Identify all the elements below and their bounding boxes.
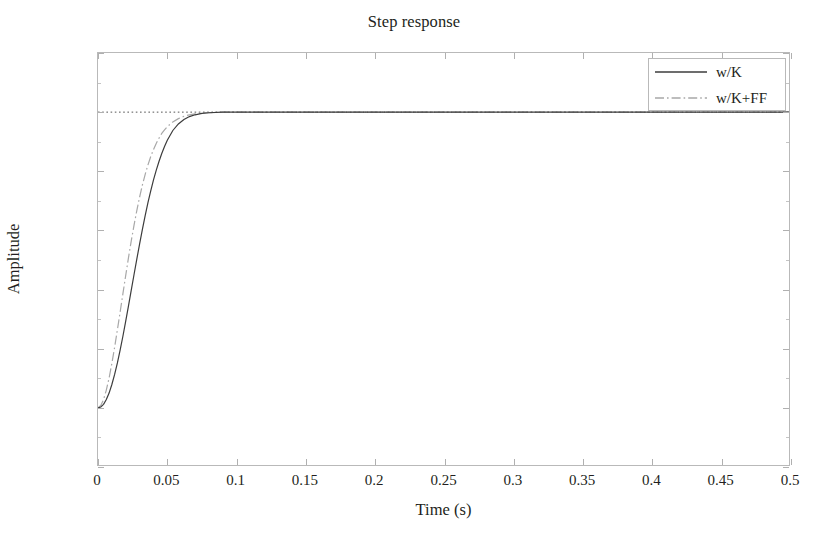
x-tick-mark (514, 459, 515, 465)
y-tick-mark (783, 349, 789, 350)
y-tick-mark (98, 171, 104, 172)
x-tick-label: 0.2 (365, 472, 384, 489)
y-axis-label: Amplitude (4, 224, 24, 295)
y-tick-mark (783, 112, 789, 113)
x-tick-label: 0 (93, 472, 101, 489)
y-minor-tick-mark (786, 142, 789, 143)
x-tick-mark (445, 53, 446, 59)
y-minor-tick-mark (98, 83, 101, 84)
legend-item-w-k: w/K (649, 59, 787, 85)
x-tick-mark (722, 459, 723, 465)
x-tick-label: 0.5 (781, 472, 800, 489)
y-minor-tick-mark (786, 378, 789, 379)
legend-line-sample-w-k-ff (654, 92, 708, 104)
series-line-w-k-ff (98, 112, 789, 408)
x-tick-mark (514, 53, 515, 59)
x-tick-label: 0.25 (430, 472, 456, 489)
y-minor-tick-mark (786, 201, 789, 202)
y-tick-mark (783, 230, 789, 231)
y-minor-tick-mark (786, 260, 789, 261)
y-tick-mark (783, 290, 789, 291)
legend-line-sample-w-k (654, 66, 708, 78)
x-tick-label: 0.1 (226, 472, 245, 489)
x-tick-mark (445, 459, 446, 465)
legend-label-w-k: w/K (716, 64, 742, 81)
x-tick-label: 0.4 (642, 472, 661, 489)
y-tick-mark (98, 349, 104, 350)
x-tick-label: 0.05 (153, 472, 179, 489)
x-tick-label: 0.15 (292, 472, 318, 489)
legend-item-w-k-ff: w/K+FF (649, 85, 787, 111)
x-tick-mark (306, 459, 307, 465)
chart-title: Step response (0, 12, 828, 32)
plot-area (97, 52, 790, 466)
curves-svg (98, 53, 789, 465)
x-tick-label: 0.45 (708, 472, 734, 489)
x-tick-mark (652, 459, 653, 465)
y-tick-mark (783, 467, 789, 468)
x-tick-mark (583, 53, 584, 59)
step-response-figure: Step response 00.050.10.150.20.250.30.35… (0, 0, 828, 546)
series-line-w-k (98, 112, 789, 408)
x-axis-label: Time (s) (97, 500, 790, 520)
y-minor-tick-mark (98, 378, 101, 379)
y-tick-mark (783, 408, 789, 409)
x-tick-mark (375, 53, 376, 59)
y-minor-tick-mark (786, 319, 789, 320)
y-tick-mark (783, 53, 789, 54)
y-tick-mark (98, 112, 104, 113)
x-tick-label: 0.35 (569, 472, 595, 489)
x-tick-mark (375, 459, 376, 465)
y-tick-mark (783, 171, 789, 172)
y-minor-tick-mark (98, 201, 101, 202)
x-tick-mark (98, 459, 99, 465)
y-minor-tick-mark (98, 142, 101, 143)
plot-inner (98, 53, 789, 465)
y-tick-mark (98, 53, 104, 54)
y-minor-tick-mark (98, 319, 101, 320)
y-minor-tick-mark (98, 437, 101, 438)
x-tick-mark (167, 53, 168, 59)
x-tick-mark (237, 459, 238, 465)
legend-label-w-k-ff: w/K+FF (716, 90, 767, 107)
y-tick-mark (98, 408, 104, 409)
x-tick-mark (583, 459, 584, 465)
x-tick-mark (791, 53, 792, 59)
y-minor-tick-mark (786, 437, 789, 438)
x-tick-mark (306, 53, 307, 59)
x-tick-label: 0.3 (503, 472, 522, 489)
y-tick-mark (98, 230, 104, 231)
x-tick-mark (791, 459, 792, 465)
x-tick-mark (237, 53, 238, 59)
y-minor-tick-mark (98, 260, 101, 261)
x-tick-mark (167, 459, 168, 465)
y-tick-mark (98, 467, 104, 468)
legend: w/K w/K+FF (648, 58, 786, 111)
y-tick-mark (98, 290, 104, 291)
